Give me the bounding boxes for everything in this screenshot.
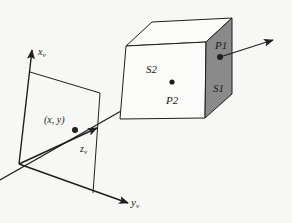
- y-axis-label: yv: [130, 196, 140, 210]
- z-axis-label: zv: [79, 143, 88, 156]
- x-axis-label: xv: [37, 46, 46, 59]
- point-p1-label: P1: [214, 39, 227, 51]
- x-axis-arrow: [19, 50, 32, 164]
- p2-dot: [169, 79, 174, 84]
- point-p2-label: P2: [165, 94, 179, 106]
- y-axis-arrow: [19, 164, 128, 203]
- surface-s2-label: S2: [146, 63, 158, 75]
- box-front-face: [120, 42, 206, 119]
- z-axis-arrow: [19, 128, 97, 164]
- image-point-label: (x, y): [44, 114, 65, 126]
- image-plane: [30, 72, 100, 193]
- camera-projection-diagram: xv yv zv (x, y) S2 P2 P1 S1: [0, 0, 292, 223]
- surface-s1-label: S1: [213, 82, 224, 94]
- image-point-dot: [72, 127, 78, 133]
